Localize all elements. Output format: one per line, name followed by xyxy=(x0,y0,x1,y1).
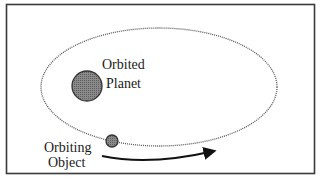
object-label-line1: Orbiting xyxy=(44,140,91,155)
orbited-planet xyxy=(72,71,102,101)
object-label-line2: Object xyxy=(48,155,85,170)
orbiting-object xyxy=(106,135,118,147)
orbit-diagram: Orbited Planet Orbiting Object xyxy=(0,0,320,180)
direction-arrow xyxy=(102,151,214,160)
planet-label-line1: Orbited xyxy=(102,57,145,72)
planet-label-line2: Planet xyxy=(106,76,141,91)
